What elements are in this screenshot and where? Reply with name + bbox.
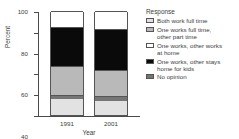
bar-segment[interactable] [51, 11, 83, 27]
bar-segment[interactable] [95, 11, 127, 29]
legend-item[interactable]: One works, other stays home for kids [146, 58, 238, 72]
legend-item[interactable]: No opinion [146, 73, 238, 80]
stacked-bar-chart: Percent Year 100806040200 19912001 Respo… [0, 0, 239, 139]
bar-group: 2001 [94, 12, 128, 116]
y-tick-label: 80 [21, 51, 28, 57]
bar-group: 1991 [50, 12, 84, 116]
legend-item-label: No opinion [157, 73, 187, 80]
legend: Response Both work full timeOne works fu… [146, 8, 238, 82]
legend-swatch-icon [146, 18, 154, 23]
bar-segment[interactable] [95, 96, 127, 101]
y-axis-title: Percent [4, 26, 11, 48]
legend-item[interactable]: Both work full time [146, 17, 238, 24]
y-tick-label: 40 [21, 134, 28, 139]
legend-swatch-icon [146, 27, 154, 32]
bar-segment[interactable] [95, 70, 127, 96]
legend-title: Response [146, 8, 238, 16]
bar-segment[interactable] [51, 66, 83, 95]
bar-segment[interactable] [95, 101, 127, 115]
legend-swatch-icon [146, 43, 154, 48]
y-tick-mark: 0 [34, 116, 38, 117]
legend-item-label: One works, other works at home [157, 42, 222, 56]
legend-item-label: Both work full time [157, 17, 208, 24]
legend-item[interactable]: One works full time, other part time [146, 26, 238, 40]
bar-segment[interactable] [95, 29, 127, 71]
legend-item-label: One works full time, other part time [157, 26, 211, 40]
legend-item-label: One works, other stays home for kids [157, 58, 220, 72]
legend-items: Both work full timeOne works full time, … [146, 17, 238, 81]
bar-stack[interactable] [50, 12, 84, 116]
bars-container: 19912001 [38, 12, 140, 116]
bar-segment[interactable] [51, 95, 83, 99]
legend-swatch-icon [146, 59, 154, 64]
x-axis-line [38, 116, 140, 117]
legend-swatch-icon [146, 74, 154, 79]
x-tick-label: 1991 [50, 120, 84, 127]
x-axis-title: Year [38, 129, 140, 136]
plot-area: 100806040200 19912001 [38, 12, 140, 116]
legend-item[interactable]: One works, other works at home [146, 42, 238, 56]
x-tick-label: 2001 [94, 120, 128, 127]
y-tick-label: 60 [21, 92, 28, 98]
y-tick-label: 100 [18, 9, 28, 15]
bar-segment[interactable] [51, 27, 83, 67]
bar-stack[interactable] [94, 12, 128, 116]
bar-segment[interactable] [51, 99, 83, 115]
